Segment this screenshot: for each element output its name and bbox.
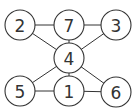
graph-diagram: 2734516	[0, 0, 140, 109]
node-7: 7	[54, 10, 84, 40]
node-label: 5	[15, 82, 26, 102]
node-label: 2	[15, 16, 26, 36]
node-label: 4	[64, 49, 75, 69]
node-3: 3	[101, 10, 131, 40]
node-label: 7	[64, 16, 75, 36]
node-1: 1	[54, 76, 84, 106]
node-2: 2	[5, 10, 35, 40]
node-label: 1	[64, 82, 75, 102]
node-label: 3	[111, 16, 122, 36]
node-6: 6	[101, 77, 131, 107]
node-label: 6	[111, 83, 122, 103]
graph-canvas: 2734516	[0, 0, 140, 109]
node-4: 4	[54, 43, 84, 73]
node-5: 5	[5, 76, 35, 106]
nodes-layer: 2734516	[5, 10, 131, 107]
